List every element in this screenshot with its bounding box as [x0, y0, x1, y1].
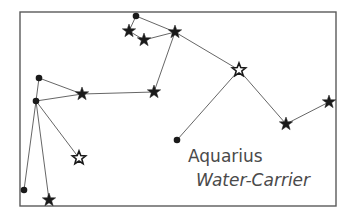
star-dot-icon	[174, 137, 181, 144]
constellation-subtitle: Water-Carrier	[196, 170, 311, 190]
star-dot-icon	[36, 75, 43, 82]
filled-star-icon	[42, 193, 55, 206]
filled-star-icon	[168, 25, 181, 38]
filled-star-icon	[322, 95, 335, 108]
constellation-line	[154, 32, 175, 92]
filled-star-icon	[75, 87, 88, 100]
star-dot-icon	[33, 98, 40, 105]
constellation-line	[286, 102, 329, 124]
constellation-line	[36, 78, 39, 101]
constellation-name: Aquarius	[188, 146, 263, 166]
constellation-line	[175, 32, 239, 70]
constellation-line	[82, 92, 154, 94]
hollow-star-icon	[232, 63, 245, 76]
filled-star-icon	[122, 24, 135, 37]
filled-star-icon	[137, 33, 150, 46]
constellation-line	[177, 70, 239, 140]
star-dot-icon	[133, 13, 140, 20]
star-dot-icon	[21, 187, 28, 194]
constellation-line	[239, 70, 286, 124]
aquarius-constellation-diagram: Aquarius Water-Carrier	[0, 0, 351, 221]
hollow-star-icon	[72, 151, 85, 164]
constellation-line	[36, 94, 82, 101]
filled-star-icon	[147, 85, 160, 98]
constellation-line	[24, 101, 36, 190]
